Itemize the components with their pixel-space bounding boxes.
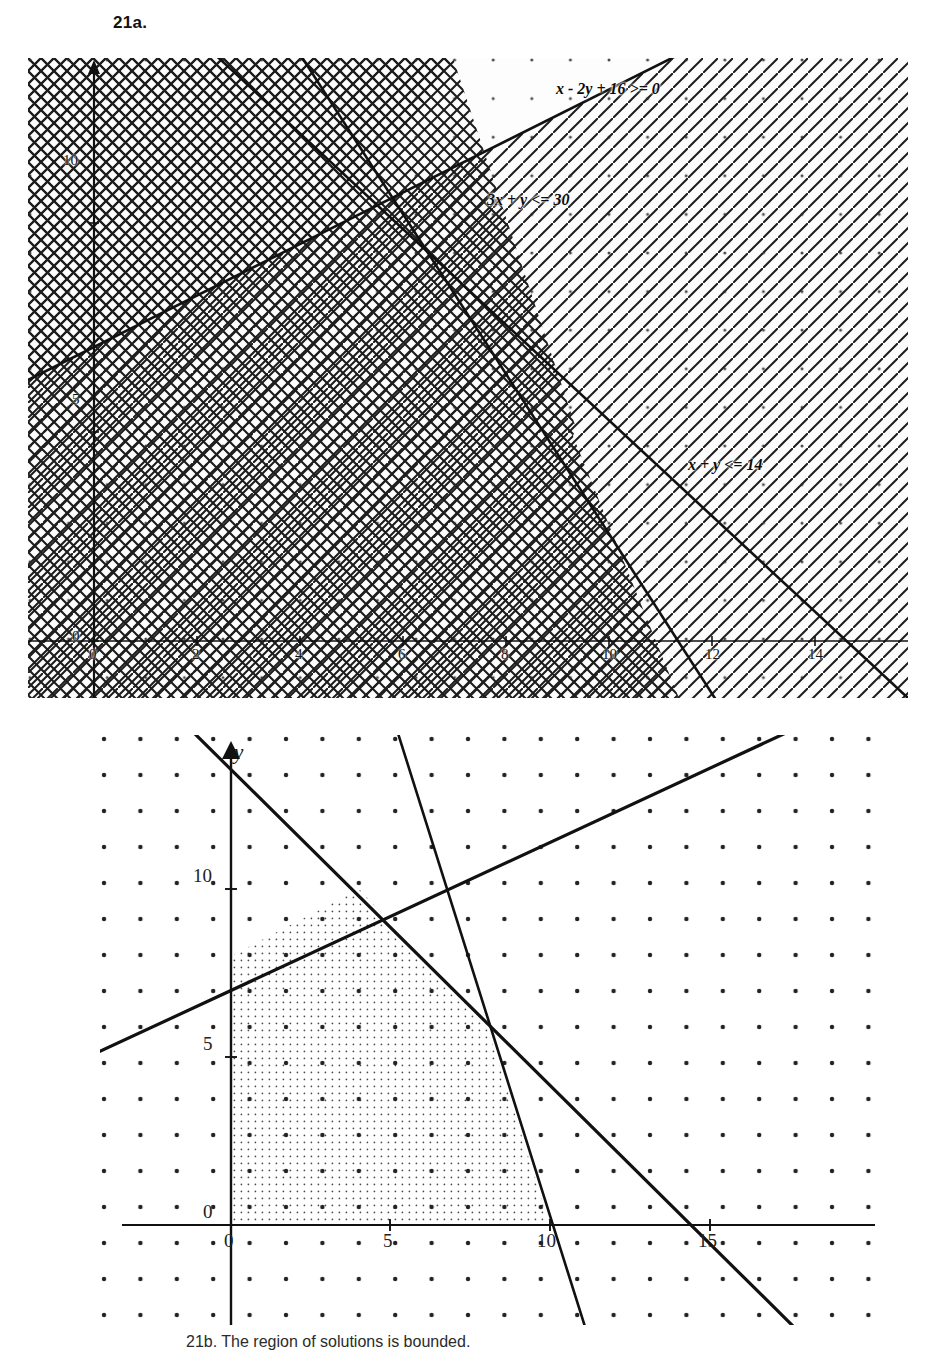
figure-b-caption: 21b. The region of solutions is bounded. bbox=[186, 1333, 470, 1351]
x-tick-label-14: 14 bbox=[808, 646, 823, 663]
x-tick-label-10: 10 bbox=[537, 1230, 556, 1252]
figure-a-hatched-graph: x - 2y + 16 >= 0 3x + y <= 30 x + y <= 1… bbox=[28, 58, 908, 698]
page-title: 21a. bbox=[113, 13, 147, 33]
y-tick-label-10: 10 bbox=[63, 152, 78, 169]
x-tick-label-12: 12 bbox=[705, 646, 720, 663]
figure-b-dotted-graph: y 0 5 10 15 0 5 10 bbox=[100, 735, 890, 1325]
annotation-inequality-1: x - 2y + 16 >= 0 bbox=[556, 80, 660, 98]
annotation-inequality-2: 3x + y <= 30 bbox=[487, 191, 569, 209]
y-tick-label-0: 0 bbox=[203, 1201, 213, 1223]
x-tick-label-10: 10 bbox=[602, 646, 617, 663]
x-tick-label-2: 2 bbox=[192, 646, 200, 663]
x-tick-label-6: 6 bbox=[398, 646, 406, 663]
figure-a-canvas bbox=[28, 58, 908, 698]
x-tick-label-15: 15 bbox=[698, 1230, 717, 1252]
figure-b-canvas bbox=[100, 735, 890, 1325]
x-tick-label-5: 5 bbox=[383, 1230, 393, 1252]
x-tick-label-0: 0 bbox=[224, 1230, 234, 1252]
y-axis-label: y bbox=[234, 740, 243, 765]
x-tick-label-4: 4 bbox=[295, 646, 303, 663]
y-tick-label-5: 5 bbox=[72, 391, 80, 408]
y-tick-label-0: 0 bbox=[72, 628, 80, 645]
y-tick-label-5: 5 bbox=[203, 1033, 213, 1055]
x-tick-label-0: 0 bbox=[89, 646, 97, 663]
x-tick-label-8: 8 bbox=[501, 646, 509, 663]
y-tick-label-10: 10 bbox=[193, 865, 212, 887]
annotation-inequality-3: x + y <= 14 bbox=[688, 456, 762, 474]
dot-lattice bbox=[28, 58, 908, 698]
